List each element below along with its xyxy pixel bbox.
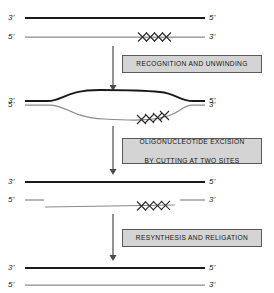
stage2-label-bottom-left: 5' xyxy=(8,101,14,109)
step-excision-label: OLIGONUCLEOTIDE EXCISION BY CUTTING AT T… xyxy=(139,137,244,166)
stage4-label-bottom-left: 5' xyxy=(8,281,14,289)
stage4-label-bottom-right: 3' xyxy=(209,281,215,289)
step-excision-box: OLIGONUCLEOTIDE EXCISION BY CUTTING AT T… xyxy=(122,138,262,164)
stage-1-intact-damaged-duplex xyxy=(25,18,205,42)
step-recognition-box: RECOGNITION AND UNWINDING xyxy=(122,55,262,73)
step-recognition-label: RECOGNITION AND UNWINDING xyxy=(136,59,247,69)
stage3-excised-fragment xyxy=(45,205,175,207)
step-resynthesis-box: RESYNTHESIS AND RELIGATION xyxy=(122,229,262,247)
stage4-label-top-right: 5' xyxy=(209,264,215,272)
stage2-damaged-strand xyxy=(25,105,205,120)
step-resynthesis-label: RESYNTHESIS AND RELIGATION xyxy=(136,233,248,243)
stage1-label-top-left: 3' xyxy=(8,14,14,22)
step-excision-line1: OLIGONUCLEOTIDE EXCISION xyxy=(139,137,244,147)
stage-4-repaired-duplex xyxy=(25,268,205,285)
stage3-label-top-left: 3' xyxy=(8,178,14,186)
step-excision-line2: BY CUTTING AT TWO SITES xyxy=(139,156,244,166)
stage-3-excised-oligonucleotide xyxy=(25,182,205,211)
stage3-label-top-right: 5' xyxy=(209,178,215,186)
stage1-label-bottom-right: 3' xyxy=(209,33,215,41)
stage4-label-top-left: 3' xyxy=(8,264,14,272)
stage2-label-bottom-right: 3' xyxy=(209,101,215,109)
stage3-label-bottom-left: 5' xyxy=(8,196,14,204)
stage1-label-top-right: 5' xyxy=(209,14,215,22)
stage3-label-bottom-right: 3' xyxy=(209,196,215,204)
stage-2-unwound-bubble xyxy=(25,90,205,124)
stage2-template-strand xyxy=(25,90,205,101)
stage1-label-bottom-left: 5' xyxy=(8,33,14,41)
